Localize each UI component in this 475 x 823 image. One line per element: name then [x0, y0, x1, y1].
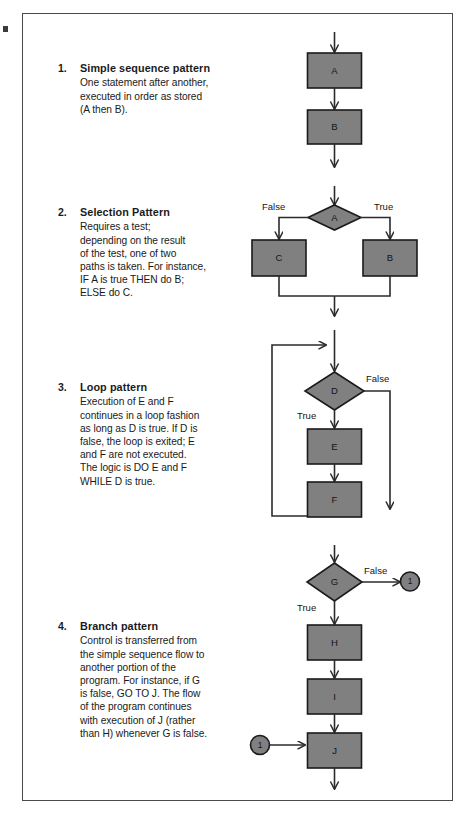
- registration-mark: [3, 26, 8, 32]
- item-number: 3.: [58, 381, 80, 395]
- item-title: Branch pattern: [80, 620, 246, 634]
- item-body: Loop pattern Execution of E and F contin…: [80, 381, 238, 488]
- description-block-4: 4. Branch pattern Control is transferred…: [58, 620, 246, 740]
- item-title: Selection Pattern: [80, 206, 238, 220]
- description-block-1: 1. Simple sequence pattern One statement…: [58, 62, 238, 116]
- item-title: Simple sequence pattern: [80, 62, 238, 76]
- item-body: Branch pattern Control is transferred fr…: [80, 620, 246, 740]
- item-number: 1.: [58, 62, 80, 76]
- item-body: Selection Pattern Requires a test; depen…: [80, 206, 238, 300]
- description-block-3: 3. Loop pattern Execution of E and F con…: [58, 381, 238, 488]
- page-canvas: 1. Simple sequence pattern One statement…: [0, 0, 475, 823]
- item-number: 2.: [58, 206, 80, 220]
- item-text: Execution of E and F continues in a loop…: [80, 395, 238, 487]
- item-text: Control is transferred from the simple s…: [80, 634, 246, 740]
- item-text: Requires a test; depending on the result…: [80, 220, 238, 299]
- item-text: One statement after another, executed in…: [80, 76, 238, 116]
- description-block-2: 2. Selection Pattern Requires a test; de…: [58, 206, 238, 300]
- item-title: Loop pattern: [80, 381, 238, 395]
- item-number: 4.: [58, 620, 80, 634]
- item-body: Simple sequence pattern One statement af…: [80, 62, 238, 116]
